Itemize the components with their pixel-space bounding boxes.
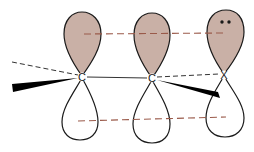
lower-lobe-3: [206, 76, 244, 137]
upper-lobe-3: [207, 10, 244, 74]
upper-overlap-dash: [84, 33, 224, 34]
upper-lobe-2: [134, 13, 170, 78]
upper-lobe-1: [64, 12, 101, 76]
lower-overlap-dash: [78, 117, 226, 121]
bond-c1-c2: [87, 77, 147, 78]
atom-label-x: X: [220, 69, 228, 81]
atom-label-c1: C: [78, 71, 86, 83]
lower-lobe-1: [62, 78, 98, 140]
atom-label-c2: C: [148, 72, 156, 84]
dashed-bond-left: [12, 62, 78, 75]
dashed-bond-c2-x: [157, 74, 219, 77]
wedge-bond-left: [12, 78, 78, 92]
orbital-diagram: C C X: [0, 0, 254, 152]
lower-lobe-2: [133, 80, 170, 143]
wedge-bond-right: [157, 80, 220, 98]
